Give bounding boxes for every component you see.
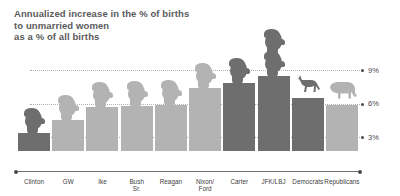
head-neck — [164, 98, 175, 106]
head-neck — [232, 76, 243, 84]
y-axis-tick-9pct: 9% — [368, 66, 379, 75]
gridline-marker — [361, 69, 364, 72]
head-neck — [27, 126, 38, 134]
axis-endpoint-left — [14, 170, 18, 174]
gridline-marker — [361, 103, 364, 106]
head-nose — [107, 92, 113, 98]
bar-column — [258, 76, 290, 151]
donkey-icon — [293, 72, 323, 98]
head-icon — [92, 83, 112, 107]
bar-carter[interactable] — [223, 83, 255, 151]
head-neck — [95, 100, 106, 108]
head-neck — [267, 47, 278, 55]
head-nose — [279, 39, 285, 45]
head-hair — [92, 82, 107, 91]
head-nose — [142, 91, 148, 97]
y-axis-tick-6pct: 6% — [368, 99, 379, 108]
baseline-axis — [16, 171, 360, 172]
x-axis-labels: ClintonGWIkeBushSr.ReaganNixon/FordCarte… — [0, 176, 400, 196]
bar-democrats[interactable] — [292, 98, 324, 151]
bar-column — [121, 106, 153, 151]
bar-column — [155, 105, 187, 151]
head-neck — [130, 99, 141, 107]
head-icon — [58, 96, 78, 120]
head-hair — [195, 63, 210, 72]
head-hair — [161, 80, 176, 89]
bar-column — [189, 88, 221, 151]
head-neck — [198, 81, 209, 89]
head-nose — [73, 105, 79, 111]
head-nose — [244, 68, 250, 74]
head-hair — [58, 95, 73, 104]
head-hair — [229, 58, 244, 67]
bar-clinton[interactable] — [18, 133, 50, 151]
head-icon — [264, 30, 284, 54]
axis-endpoint-right — [358, 170, 362, 174]
head-hair — [264, 29, 279, 38]
bar-ike[interactable] — [86, 107, 118, 151]
bar-column — [86, 107, 118, 151]
bar-column — [18, 133, 50, 151]
head-nose — [210, 73, 216, 79]
bar-nixon-ford[interactable] — [189, 88, 221, 151]
head-icon — [127, 82, 147, 106]
bar-reagan[interactable] — [155, 105, 187, 151]
bar-chart: Annualized increase in the % of births t… — [0, 0, 400, 196]
head-icon — [229, 59, 249, 83]
x-axis-label-republicans: Republicans — [320, 178, 364, 185]
head-nose — [176, 90, 182, 96]
bar-column — [326, 105, 358, 151]
head-hair — [24, 108, 39, 117]
head-icon — [264, 52, 284, 76]
head-hair — [127, 81, 142, 90]
head-neck — [61, 113, 72, 121]
bar-column — [223, 83, 255, 151]
y-axis-tick-3pct: 3% — [368, 133, 379, 142]
head-icon — [195, 64, 215, 88]
bar-bush-sr[interactable] — [121, 106, 153, 151]
plot-area: 9%6%3% — [0, 0, 400, 176]
head-nose — [39, 118, 45, 124]
gridline-marker — [361, 136, 364, 139]
elephant-icon — [325, 81, 359, 105]
bar-column — [292, 98, 324, 151]
head-icon — [24, 109, 44, 133]
bar-column — [52, 120, 84, 151]
head-neck — [267, 69, 278, 77]
head-nose — [279, 61, 285, 67]
bar-gw[interactable] — [52, 120, 84, 151]
head-icon — [161, 81, 181, 105]
bar-jfk-lbj[interactable] — [258, 76, 290, 151]
bar-republicans[interactable] — [326, 105, 358, 151]
